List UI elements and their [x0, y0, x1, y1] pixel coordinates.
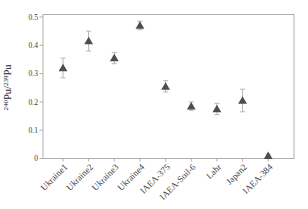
y-tick-label: 0.2 [29, 98, 39, 107]
scatter-plot: 00.10.20.30.40.5Ukraine1Ukraine2Ukraine3… [0, 0, 308, 209]
figure: 00.10.20.30.40.5Ukraine1Ukraine2Ukraine3… [0, 0, 308, 209]
y-tick-label: 0.5 [29, 13, 39, 22]
y-tick-label: 0.3 [29, 69, 39, 78]
y-tick-label: 0.4 [29, 41, 39, 50]
y-tick-label: 0 [34, 154, 38, 163]
y-tick-label: 0.1 [29, 126, 39, 135]
